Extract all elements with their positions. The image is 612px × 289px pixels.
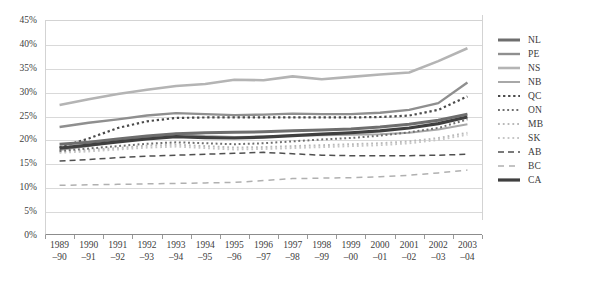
series-line-bc — [60, 170, 468, 185]
x-axis-tick-label: 1993–94 — [167, 240, 186, 263]
legend-item-bc[interactable]: BC — [498, 159, 608, 173]
x-axis-tick-label: 2001–02 — [400, 240, 419, 263]
x-axis-tick-label: 1998–99 — [312, 240, 331, 263]
y-axis-tick-label: 15% — [20, 158, 37, 168]
x-axis-tick-label: 1996–97 — [254, 240, 273, 263]
series-line-ab — [60, 152, 468, 161]
y-axis-tick-label: 20% — [20, 134, 37, 144]
x-axis-tick-label: 1992–93 — [137, 240, 156, 263]
legend-label: SK — [528, 133, 541, 143]
y-axis-tick-label: 30% — [20, 87, 37, 97]
chart-legend: NLPENSNBQCONMBSKABBCCA — [498, 33, 608, 187]
legend-label: PE — [528, 49, 540, 59]
x-axis-tick-label: 1990–91 — [79, 240, 98, 263]
legend-label: ON — [528, 105, 542, 115]
legend-swatch-ab-icon — [498, 147, 520, 157]
series-line-pe — [60, 83, 468, 127]
legend-item-nl[interactable]: NL — [498, 33, 608, 47]
legend-swatch-mb-icon — [498, 119, 520, 129]
legend-label: MB — [528, 119, 543, 129]
legend-item-sk[interactable]: SK — [498, 131, 608, 145]
x-axis-tick-label: 1994–95 — [196, 240, 215, 263]
x-axis-tick-label: 1989–90 — [50, 240, 69, 263]
legend-label: BC — [528, 161, 541, 171]
x-axis-tick-label: 1997–98 — [283, 240, 302, 263]
legend-item-ns[interactable]: NS — [498, 61, 608, 75]
x-axis-labels: 1989–901990–911991–921992–931993–941994–… — [45, 236, 482, 286]
legend-item-ca[interactable]: CA — [498, 173, 608, 187]
x-axis-tick-label: 2003–04 — [458, 240, 477, 263]
legend-label: NS — [528, 63, 541, 73]
legend-item-nb[interactable]: NB — [498, 75, 608, 89]
y-axis-tick-label: 5% — [24, 206, 37, 216]
legend-swatch-nb-icon — [498, 77, 520, 87]
legend-swatch-ca-icon — [498, 175, 520, 185]
y-axis-tick-label: 40% — [20, 39, 37, 49]
y-axis-labels: 45%40%35%30%25%20%15%10%5%0% — [0, 20, 41, 235]
legend-label: NB — [528, 77, 542, 87]
legend-item-ab[interactable]: AB — [498, 145, 608, 159]
legend-swatch-bc-icon — [498, 161, 520, 171]
x-axis-tick-label: 2000–01 — [371, 240, 390, 263]
x-axis-tick — [482, 235, 483, 239]
series-layer — [45, 20, 482, 235]
x-axis-tick-label: 2002–03 — [429, 240, 448, 263]
legend-item-mb[interactable]: MB — [498, 117, 608, 131]
legend-swatch-ns-icon — [498, 63, 520, 73]
legend-swatch-qc-icon — [498, 91, 520, 101]
legend-label: AB — [528, 147, 542, 157]
y-axis-tick-label: 45% — [20, 15, 37, 25]
legend-divider — [482, 15, 483, 220]
y-axis-tick-label: 10% — [20, 182, 37, 192]
y-axis-tick-label: 25% — [20, 111, 37, 121]
legend-label: NL — [528, 35, 541, 45]
y-axis-tick-label: 35% — [20, 63, 37, 73]
x-axis-tick-label: 1995–96 — [225, 240, 244, 263]
legend-item-qc[interactable]: QC — [498, 89, 608, 103]
x-axis-tick-label: 1991–92 — [108, 240, 127, 263]
legend-swatch-nl-icon — [498, 35, 520, 45]
line-chart: 45%40%35%30%25%20%15%10%5%0% 1989–901990… — [0, 0, 612, 289]
y-axis-tick-label: 0% — [24, 230, 37, 240]
legend-item-pe[interactable]: PE — [498, 47, 608, 61]
x-axis-tick-label: 1999–00 — [341, 240, 360, 263]
series-line-ns — [60, 48, 468, 105]
legend-label: QC — [528, 91, 542, 101]
legend-item-on[interactable]: ON — [498, 103, 608, 117]
legend-swatch-pe-icon — [498, 49, 520, 59]
legend-swatch-on-icon — [498, 105, 520, 115]
legend-label: CA — [528, 175, 542, 185]
legend-swatch-sk-icon — [498, 133, 520, 143]
